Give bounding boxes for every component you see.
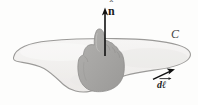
diagram-canvas xyxy=(0,0,198,105)
vector-arrow-accent-icon xyxy=(159,76,167,80)
n-hat-glyph: ˆ n xyxy=(108,4,115,17)
dl-vector-glyph: dℓ xyxy=(157,80,166,90)
dl-letters: dℓ xyxy=(157,79,166,90)
line-element-label: dℓ xyxy=(157,80,166,90)
normal-vector-label: ˆ n xyxy=(108,4,115,17)
hat-accent-icon: ˆ xyxy=(110,0,114,10)
physics-diagram-figure: ˆ n C dℓ xyxy=(0,0,198,105)
boundary-curve-label: C xyxy=(171,28,179,40)
